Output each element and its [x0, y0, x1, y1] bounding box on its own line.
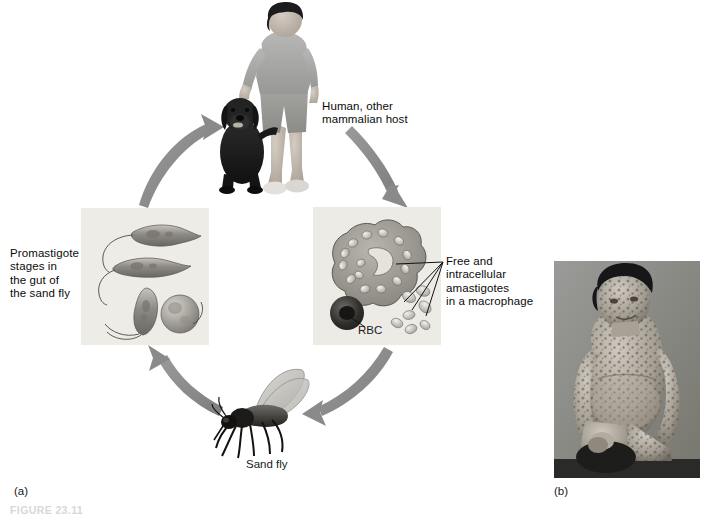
label-human-host: Human, other mammalian host [322, 100, 408, 127]
figure-caption: FIGURE 23.11 [10, 504, 83, 516]
promastigote-illustration [81, 208, 209, 345]
panel-a-label: (a) [14, 485, 28, 497]
patient-photograph [554, 261, 700, 478]
arrow-promastigote-to-host [139, 114, 224, 208]
arrow-host-to-macrophage [345, 126, 408, 208]
label-amastigote: Free and intracellular amastigotes in a … [446, 255, 533, 309]
panel-b-label: (b) [554, 485, 568, 497]
label-sandfly: Sand fly [246, 458, 288, 470]
label-rbc: RBC [358, 324, 382, 336]
sandfly-illustration [212, 364, 330, 462]
label-promastigote: Promastigote stages in the gut of the sa… [10, 247, 79, 301]
human-host-image [216, 2, 336, 202]
